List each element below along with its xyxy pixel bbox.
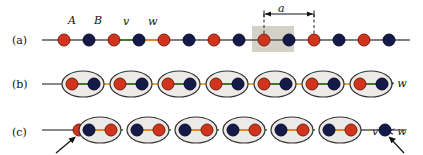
site-b-navy [275, 124, 287, 136]
site-b-navy [183, 34, 195, 46]
site-a-red [66, 78, 78, 90]
site-b-navy [280, 78, 292, 90]
site-b-navy [83, 124, 95, 136]
site-a-red [201, 124, 213, 136]
site-a-red [308, 34, 320, 46]
site-a-red [114, 78, 126, 90]
dimer [206, 71, 248, 97]
site-b-navy [136, 78, 148, 90]
site-b-navy [383, 34, 395, 46]
panel-a-graphics [0, 0, 423, 58]
site-b-navy [283, 34, 295, 46]
site-b-navy [323, 124, 335, 136]
site-a-red [297, 124, 309, 136]
panel-c-graphics [0, 108, 423, 155]
site-a-red [58, 34, 70, 46]
site-b-navy [131, 124, 143, 136]
site-a-red [358, 34, 370, 46]
dimer [175, 117, 217, 143]
site-a-red [108, 34, 120, 46]
arrow-right-head [389, 137, 397, 144]
site-a-red [258, 78, 270, 90]
site-a-red [306, 78, 318, 90]
site-a-red [105, 124, 117, 136]
site-b-navy [88, 78, 100, 90]
site-b-navy [232, 78, 244, 90]
site-b-navy [133, 34, 145, 46]
dimer [350, 71, 392, 97]
site-a-red [354, 78, 366, 90]
site-a-red [258, 34, 270, 46]
site-b-navy [184, 78, 196, 90]
measure-arrowhead-left [265, 12, 271, 17]
site-b-navy [83, 34, 95, 46]
dimer [271, 117, 313, 143]
dimer-group-b [62, 71, 392, 97]
site-a-red [208, 34, 220, 46]
edge-state-site-right [379, 124, 391, 136]
site-a-red [249, 124, 261, 136]
site-b-navy [179, 124, 191, 136]
dimer [158, 71, 200, 97]
dimer [223, 117, 265, 143]
site-a-red [153, 124, 165, 136]
site-a-red [345, 124, 357, 136]
dimer [62, 71, 104, 97]
dimer-group-c [79, 117, 361, 143]
measure-arrowhead-right [307, 12, 313, 17]
site-a-red [158, 34, 170, 46]
site-a-red [210, 78, 222, 90]
dimer [302, 71, 344, 97]
dimer [319, 117, 361, 143]
panel-b-graphics [0, 60, 423, 108]
dimer [254, 71, 296, 97]
site-b-navy [227, 124, 239, 136]
ssh-model-figure: (a) A B v w a [0, 0, 423, 155]
dimer [110, 71, 152, 97]
site-b-navy [376, 78, 388, 90]
dimer [127, 117, 169, 143]
dimer [79, 117, 121, 143]
site-b-navy [328, 78, 340, 90]
site-b-navy [333, 34, 345, 46]
site-b-navy [233, 34, 245, 46]
site-a-red [162, 78, 174, 90]
